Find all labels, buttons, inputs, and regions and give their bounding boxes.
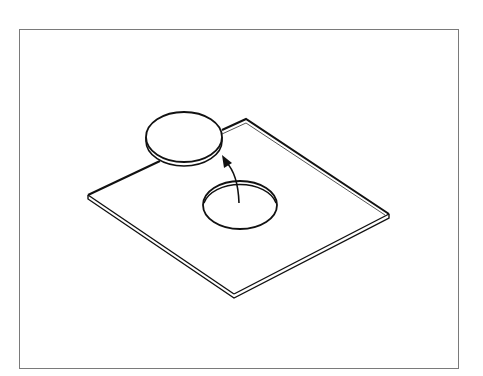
disc-top-face bbox=[146, 112, 222, 162]
hole-outline bbox=[203, 181, 277, 229]
disc bbox=[146, 112, 222, 166]
hole bbox=[203, 181, 277, 229]
diagram-canvas bbox=[0, 0, 483, 376]
